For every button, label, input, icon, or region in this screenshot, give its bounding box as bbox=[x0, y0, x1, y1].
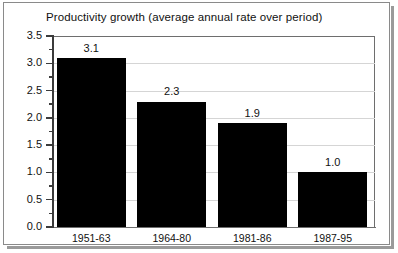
bar-value-label: 3.1 bbox=[57, 42, 126, 54]
y-axis-tick-minor bbox=[49, 76, 53, 78]
y-axis-tick-major bbox=[46, 90, 53, 92]
y-axis-tick-label: 3.0 bbox=[0, 56, 42, 68]
y-axis-tick-minor bbox=[49, 185, 53, 187]
x-axis-tick-label: 1964-80 bbox=[131, 232, 212, 244]
y-axis-tick-label: 3.5 bbox=[0, 29, 42, 41]
y-axis-tick-minor bbox=[49, 131, 53, 133]
y-axis-tick-label: 1.5 bbox=[0, 138, 42, 150]
y-axis-tick-major bbox=[46, 35, 53, 37]
plot-border-bottom bbox=[53, 227, 376, 228]
bar-value-label: 1.0 bbox=[298, 156, 367, 168]
chart-title: Productivity growth (average annual rate… bbox=[46, 11, 322, 23]
x-axis-tick-label: 1951-63 bbox=[51, 232, 132, 244]
y-axis-tick-minor bbox=[49, 158, 53, 160]
bar-value-label: 1.9 bbox=[218, 107, 287, 119]
plot-area bbox=[53, 36, 375, 227]
y-axis-tick-major bbox=[46, 172, 53, 174]
y-axis-tick-minor bbox=[49, 103, 53, 105]
bar-value-label: 2.3 bbox=[137, 85, 206, 97]
y-axis-tick-label: 2.5 bbox=[0, 84, 42, 96]
bar bbox=[137, 102, 206, 228]
y-axis-tick-major bbox=[46, 63, 53, 65]
y-axis-tick-label: 0.5 bbox=[0, 193, 42, 205]
y-axis-tick-label: 2.0 bbox=[0, 111, 42, 123]
x-axis-tick-label: 1987-95 bbox=[292, 232, 373, 244]
y-axis-tick-minor bbox=[49, 213, 53, 215]
y-axis-tick-major bbox=[46, 117, 53, 119]
x-axis-tick-label: 1981-86 bbox=[212, 232, 293, 244]
plot-border-top bbox=[53, 36, 375, 37]
figure-shadow-right bbox=[391, 6, 394, 249]
figure-shadow-bottom bbox=[7, 246, 394, 249]
y-axis-tick-major bbox=[46, 226, 53, 228]
y-axis-tick-label: 1.0 bbox=[0, 165, 42, 177]
y-axis-tick-label: 0.0 bbox=[0, 220, 42, 232]
bar bbox=[218, 123, 287, 227]
y-axis-tick-major bbox=[46, 144, 53, 146]
bar bbox=[57, 58, 126, 227]
y-axis-tick-minor bbox=[49, 49, 53, 51]
y-axis-tick-major bbox=[46, 199, 53, 201]
bar bbox=[298, 172, 367, 227]
